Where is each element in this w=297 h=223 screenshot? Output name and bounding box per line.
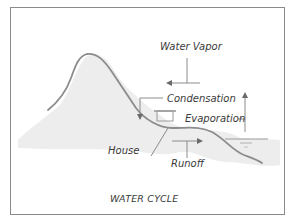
label-water-vapor: Water Vapor: [160, 42, 222, 52]
label-house: House: [108, 146, 139, 156]
water-cycle-scene: [0, 0, 297, 223]
label-condensation: Condensation: [167, 94, 236, 104]
label-runoff: Runoff: [171, 159, 204, 169]
diagram-title: WATER CYCLE: [110, 193, 179, 204]
land-shading: [18, 54, 280, 166]
label-evaporation: Evaporation: [185, 114, 245, 124]
